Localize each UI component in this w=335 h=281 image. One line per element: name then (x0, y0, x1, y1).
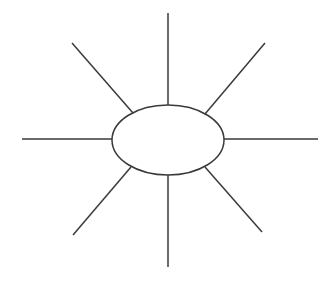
center-ellipse-node[interactable] (112, 105, 224, 175)
sun-diagram (0, 0, 335, 281)
diagram-canvas (0, 0, 335, 281)
